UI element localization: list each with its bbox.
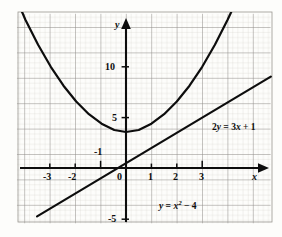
y-axis-name: y xyxy=(115,20,119,30)
annotation-parabola-equation: y = x2 − 4 xyxy=(159,200,197,212)
y-tick-label--5: -5 xyxy=(108,214,116,224)
x-tick-label--2: -2 xyxy=(68,172,76,182)
annotation-parab-eq: = xyxy=(163,201,173,211)
x-tick-label-3: 3 xyxy=(199,172,204,182)
annotation-parab-tail: − 4 xyxy=(182,201,197,211)
x-tick-label-2: 2 xyxy=(173,172,178,182)
x-tick-label-0: 0 xyxy=(117,172,122,182)
y-tick-label-5: 5 xyxy=(112,113,117,123)
x-axis-name: x xyxy=(252,172,257,182)
grid-background xyxy=(17,12,272,224)
x-tick-label--3: -3 xyxy=(43,172,51,182)
annotation-line-equation: 2y = 3x + 1 xyxy=(212,123,256,133)
annotation-line-tail: + 1 xyxy=(241,122,256,132)
y-tick-label-10: 10 xyxy=(105,62,115,72)
x-tick-label-1: 1 xyxy=(148,172,153,182)
graph-canvas xyxy=(0,0,282,237)
chart-figure: -3 -2 -1 0 1 2 3 10 5 -5 x y 2y = 3x + 1… xyxy=(0,0,282,237)
x-tick-label--1: -1 xyxy=(94,147,102,157)
annotation-line-rest: = 3 xyxy=(221,122,236,132)
